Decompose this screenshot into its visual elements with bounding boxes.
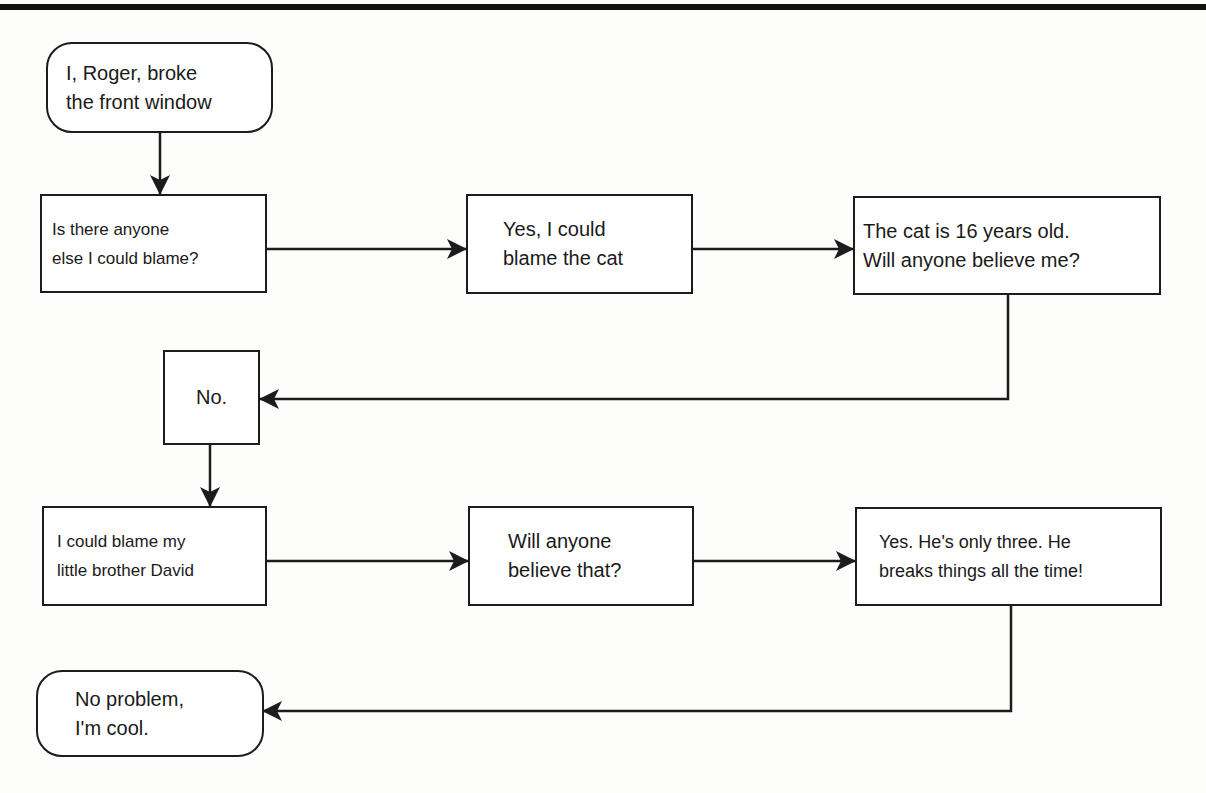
- blame-cat-node: Yes, I could blame the cat: [466, 194, 693, 294]
- start-node-text: I, Roger, broke the front window: [66, 59, 212, 117]
- blame-brother-node: I could blame my little brother David: [42, 506, 267, 606]
- start-node: I, Roger, broke the front window: [46, 42, 273, 133]
- cat-old-node: The cat is 16 years old. Will anyone bel…: [853, 196, 1161, 295]
- believe-that-node: Will anyone believe that?: [468, 506, 694, 606]
- only-three-text: Yes. He's only three. He breaks things a…: [879, 528, 1083, 586]
- edge-yes-three-to-end: [263, 606, 1011, 711]
- only-three-node: Yes. He's only three. He breaks things a…: [855, 507, 1162, 606]
- cat-old-text: The cat is 16 years old. Will anyone bel…: [863, 217, 1080, 275]
- question-blame-node: Is there anyone else I could blame?: [40, 194, 267, 293]
- believe-that-text: Will anyone believe that?: [508, 527, 621, 585]
- blame-brother-text: I could blame my little brother David: [57, 527, 194, 585]
- no-node: No.: [163, 350, 260, 445]
- end-node: No problem, I'm cool.: [36, 670, 264, 757]
- blame-cat-text: Yes, I could blame the cat: [503, 215, 623, 273]
- edge-cat-old-to-no: [260, 295, 1008, 399]
- end-node-text: No problem, I'm cool.: [75, 685, 184, 743]
- question-blame-text: Is there anyone else I could blame?: [52, 215, 198, 273]
- no-text: No.: [196, 383, 227, 412]
